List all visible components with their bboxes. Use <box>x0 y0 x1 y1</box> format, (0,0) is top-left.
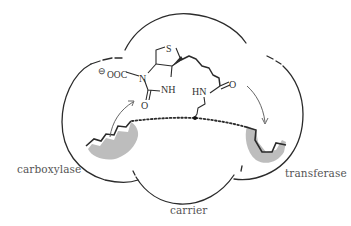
swinging-arm-paths <box>132 118 246 127</box>
top-arc <box>125 14 246 50</box>
stereo-wedge <box>172 56 183 66</box>
right-joint-tick <box>241 166 242 171</box>
thiophane-right <box>172 48 181 66</box>
ring-nh-label: NH <box>161 84 175 95</box>
left-joint-tick <box>133 171 135 175</box>
ring-bond-n1 <box>148 64 156 73</box>
carbonyl-o-label: O <box>141 100 148 111</box>
ring-n-label: N <box>139 73 146 84</box>
lysine-chain <box>195 97 205 117</box>
charge-label: ⊖ <box>98 66 106 76</box>
urea-bonds <box>144 79 160 91</box>
transferase-active-site <box>246 126 286 163</box>
ring-bond-nh <box>171 66 172 77</box>
arm-path-right <box>196 118 246 127</box>
diagram-canvas: S ⊖ OOC N NH O HN O <box>0 0 351 226</box>
carboxyl-link <box>126 72 139 76</box>
left-dash-1 <box>91 61 100 64</box>
transferase-label: transferase <box>285 167 347 179</box>
arm-path-left <box>132 118 194 121</box>
biotin-carboxylase-diagram: S ⊖ OOC N NH O HN O carboxylase carrier … <box>0 0 351 226</box>
carrier-label: carrier <box>170 204 207 216</box>
amide-hn-label: HN <box>192 86 206 97</box>
left-dash-2 <box>103 58 112 60</box>
carboxylate-label: OOC <box>107 70 127 80</box>
carbonyl-bond-2 <box>149 90 151 100</box>
right-dash-2 <box>276 61 281 64</box>
thiophane-left <box>156 47 165 64</box>
amide-co-1 <box>220 82 229 86</box>
carbonyl-bond-1 <box>146 90 148 100</box>
carrier-outline <box>136 175 234 204</box>
amide-cn <box>210 86 220 93</box>
fused-bond <box>156 64 172 66</box>
arrow-to-transferase <box>247 86 265 122</box>
sulfur-label: S <box>166 43 172 54</box>
valeryl-chain <box>181 56 220 86</box>
complex-outline <box>62 14 303 204</box>
carboxylase-label: carboxylase <box>17 163 81 175</box>
right-dash-1 <box>267 56 273 59</box>
amide-o-label: O <box>229 79 236 90</box>
